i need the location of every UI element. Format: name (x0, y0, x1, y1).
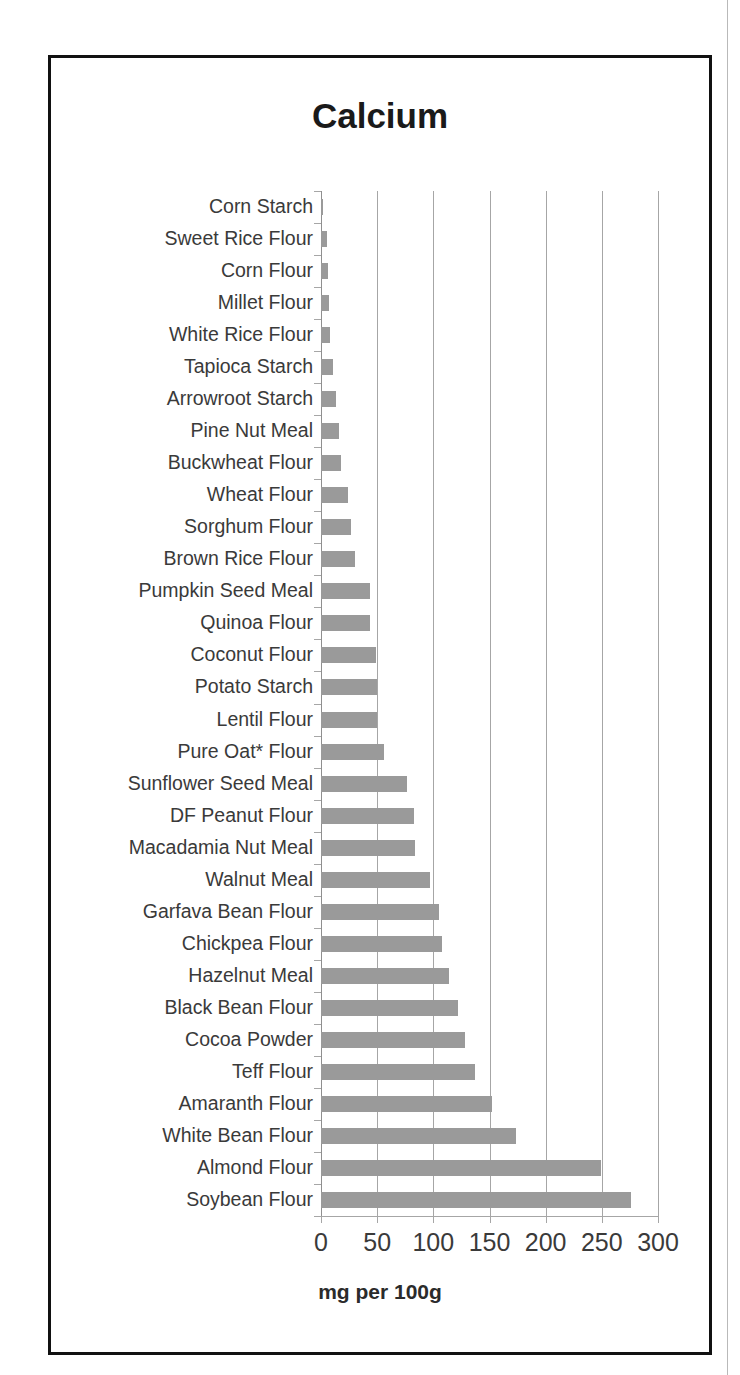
category-label: White Bean Flour (53, 1126, 313, 1146)
category-tick (314, 575, 321, 576)
bar-row (321, 864, 658, 896)
bar-row (321, 1024, 658, 1056)
bar-row (321, 255, 658, 287)
category-tick (314, 832, 321, 833)
bar (321, 744, 384, 760)
bar-row (321, 1184, 658, 1216)
category-label: Black Bean Flour (53, 998, 313, 1018)
category-tick (314, 479, 321, 480)
bar (321, 199, 323, 215)
value-tick-label: 100 (412, 1230, 454, 1255)
bar-row (321, 511, 658, 543)
category-label: Corn Flour (53, 261, 313, 281)
bar (321, 615, 370, 631)
category-label: Corn Starch (53, 197, 313, 217)
bar (321, 263, 328, 279)
bar-row (321, 1056, 658, 1088)
category-label: Chickpea Flour (53, 934, 313, 954)
category-tick (314, 191, 321, 192)
bar (321, 423, 339, 439)
bar (321, 776, 407, 792)
bar (321, 872, 430, 888)
category-tick (314, 1088, 321, 1089)
category-label: Teff Flour (53, 1062, 313, 1082)
category-label: Tapioca Starch (53, 357, 313, 377)
bar (321, 1096, 492, 1112)
value-tick-150 (490, 1216, 491, 1223)
bar (321, 712, 377, 728)
category-tick (314, 639, 321, 640)
bar-row (321, 928, 658, 960)
bar (321, 1000, 458, 1016)
bar (321, 487, 348, 503)
category-label: Amaranth Flour (53, 1094, 313, 1114)
bar (321, 840, 415, 856)
plot-area (321, 191, 658, 1216)
bar (321, 583, 370, 599)
value-tick-label: 250 (581, 1230, 623, 1255)
scanned-page: Calcium Corn StarchSweet Rice FlourCorn … (0, 0, 740, 1375)
category-label: Almond Flour (53, 1158, 313, 1178)
category-label: Soybean Flour (53, 1190, 313, 1210)
category-tick (314, 415, 321, 416)
bar-row (321, 479, 658, 511)
bar (321, 231, 327, 247)
category-label: Cocoa Powder (53, 1030, 313, 1050)
category-label: DF Peanut Flour (53, 806, 313, 826)
bar (321, 1064, 475, 1080)
bar-row (321, 223, 658, 255)
bar (321, 679, 377, 695)
value-tick-label: 50 (363, 1230, 391, 1255)
value-tick-300 (658, 1216, 659, 1223)
bar (321, 519, 351, 535)
category-tick (314, 928, 321, 929)
category-label: Lentil Flour (53, 710, 313, 730)
category-tick (314, 1216, 321, 1217)
category-tick (314, 383, 321, 384)
category-tick (314, 768, 321, 769)
category-tick (314, 1184, 321, 1185)
bar (321, 391, 336, 407)
category-tick (314, 1152, 321, 1153)
category-label: Pure Oat* Flour (53, 742, 313, 762)
category-tick (314, 447, 321, 448)
bar-row (321, 287, 658, 319)
category-label: Macadamia Nut Meal (53, 838, 313, 858)
category-label: Brown Rice Flour (53, 549, 313, 569)
bar-row (321, 383, 658, 415)
bar (321, 295, 329, 311)
value-tick-label: 200 (525, 1230, 567, 1255)
category-label: Garfava Bean Flour (53, 902, 313, 922)
category-tick (314, 960, 321, 961)
category-label: Pine Nut Meal (53, 421, 313, 441)
category-tick (314, 319, 321, 320)
bar (321, 968, 449, 984)
bar-row (321, 543, 658, 575)
category-label: Walnut Meal (53, 870, 313, 890)
bar-row (321, 575, 658, 607)
category-tick (314, 671, 321, 672)
category-label: Buckwheat Flour (53, 453, 313, 473)
value-tick-250 (602, 1216, 603, 1223)
bar-row (321, 351, 658, 383)
bar (321, 808, 414, 824)
bar-row (321, 736, 658, 768)
value-tick-label: 150 (469, 1230, 511, 1255)
category-label: Sorghum Flour (53, 517, 313, 537)
category-tick (314, 1120, 321, 1121)
bar (321, 936, 442, 952)
category-label: Sweet Rice Flour (53, 229, 313, 249)
category-label: Potato Starch (53, 677, 313, 697)
category-axis-labels: Corn StarchSweet Rice FlourCorn FlourMil… (51, 191, 313, 1216)
value-axis-tick-labels: 050100150200250300 (51, 1230, 709, 1264)
category-tick (314, 800, 321, 801)
bar-row (321, 1088, 658, 1120)
bar (321, 647, 376, 663)
category-label: Coconut Flour (53, 645, 313, 665)
bar (321, 1128, 516, 1144)
bar-row (321, 832, 658, 864)
category-tick (314, 1024, 321, 1025)
value-tick-0 (321, 1216, 322, 1223)
category-tick (314, 223, 321, 224)
bar (321, 1192, 631, 1208)
